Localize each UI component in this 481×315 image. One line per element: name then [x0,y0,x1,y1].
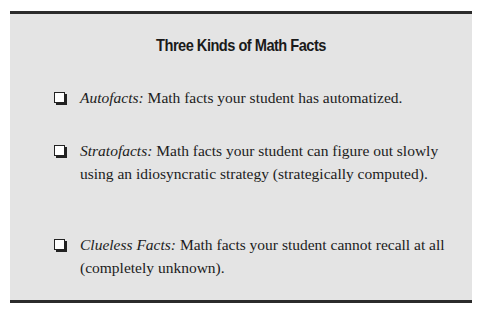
checkbox-icon [54,145,65,156]
item-term: Autofacts: [80,89,144,106]
item-term: Stratofacts: [80,142,152,159]
item-term: Clueless Facts: [80,236,176,253]
list-item-autofacts: Autofacts: Math facts your student has a… [54,87,454,110]
checkbox-icon [54,239,65,250]
box-title: Three Kinds of Math Facts [42,36,439,56]
item-definition: Math facts your student has automatized. [144,89,403,106]
item-text: Stratofacts: Math facts your student can… [80,140,454,185]
checkbox-icon [54,92,65,103]
list-item-clueless-facts: Clueless Facts: Math facts your student … [54,234,454,279]
item-text: Clueless Facts: Math facts your student … [80,234,454,279]
item-text: Autofacts: Math facts your student has a… [80,87,454,110]
list-item-stratofacts: Stratofacts: Math facts your student can… [54,140,454,185]
math-facts-sidebar-box: Three Kinds of Math Facts Autofacts: Mat… [10,11,472,303]
